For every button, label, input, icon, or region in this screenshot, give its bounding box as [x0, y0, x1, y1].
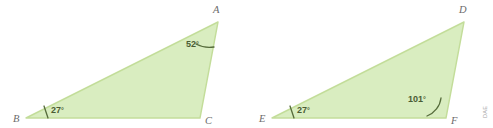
- vertex-label-e: E: [258, 113, 266, 124]
- triangle-abc-group: A B C 52° 27°: [13, 4, 220, 126]
- triangle-def-group: D E F 101° 27°: [258, 4, 467, 126]
- angle-label-b: 27°: [51, 105, 64, 115]
- angle-label-f: 101°: [408, 94, 426, 104]
- angle-label-e: 27°: [297, 105, 310, 115]
- geometry-diagram-svg: A B C 52° 27° D E F 101°: [0, 0, 493, 128]
- vertex-label-f: F: [450, 115, 458, 126]
- triangle-abc-shape: [26, 22, 218, 118]
- vertex-label-b: B: [13, 113, 20, 124]
- angle-label-a: 52°: [186, 39, 199, 49]
- vertex-label-c: C: [205, 115, 213, 126]
- diagram-canvas: A B C 52° 27° D E F 101°: [0, 0, 493, 128]
- watermark-text: DAE: [482, 106, 488, 118]
- vertex-label-a: A: [212, 4, 220, 15]
- vertex-label-d: D: [458, 4, 467, 15]
- triangle-def-shape: [272, 22, 464, 118]
